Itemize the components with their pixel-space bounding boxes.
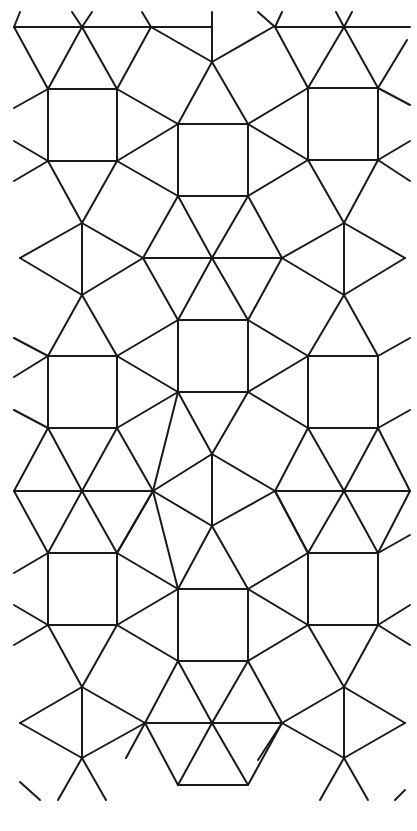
tiling-edge [178, 723, 212, 785]
tiling-edge [14, 625, 48, 645]
tiling-edge [248, 320, 308, 356]
tiling-edge [117, 392, 178, 428]
tiling-edge [378, 40, 407, 88]
tiling-edge [308, 625, 344, 687]
tiling-edge [248, 553, 308, 589]
tiling-edge [282, 258, 344, 295]
tiling-edge [212, 27, 273, 62]
tiling-edge [248, 356, 308, 392]
tiling-edge [308, 160, 344, 223]
tiling-edge [117, 553, 178, 589]
tiling-edge [258, 12, 275, 27]
tiling-edge [14, 356, 48, 377]
tiling-edge [20, 258, 82, 295]
tiling-edge [82, 161, 117, 223]
tiling-edge [212, 454, 275, 491]
tiling-edge [378, 428, 410, 491]
tiling-edge [378, 410, 410, 428]
tiling-edge [20, 223, 82, 258]
tiling-edge [282, 687, 344, 723]
tiling-edge [282, 723, 344, 758]
tiling-edge [20, 723, 82, 758]
tiling-edge [117, 161, 178, 196]
tiling-figure [0, 0, 417, 831]
tiling-edge [378, 160, 410, 181]
tiling-edge [308, 27, 344, 88]
tiling-edge [14, 12, 20, 27]
tiling-edge [14, 27, 48, 89]
tiling-edge [14, 428, 48, 491]
tiling-edge [248, 160, 308, 196]
tiling-edge [117, 589, 178, 625]
tiling-edge [20, 687, 82, 723]
tiling-edge [344, 723, 405, 758]
tiling-edge [395, 790, 405, 800]
tiling-edge [82, 12, 92, 27]
tiling-edge [212, 62, 248, 124]
tiling-edge [82, 27, 117, 89]
tiling-edge [14, 161, 48, 181]
tiling-edge [248, 589, 308, 625]
tiling-edge [48, 295, 82, 356]
tiling-edge [344, 258, 405, 295]
tiling-edge [117, 491, 153, 553]
tiling-edge [378, 605, 410, 625]
tiling-edge [117, 356, 178, 392]
tiling-edge [344, 687, 405, 723]
tiling-edge [82, 428, 117, 491]
tiling-edge [142, 12, 151, 27]
tiling-edge [378, 338, 410, 356]
tiling-edge [14, 141, 48, 161]
tiling-edge [212, 258, 248, 320]
tiling-edge [275, 428, 308, 491]
tiling-edge [14, 89, 48, 108]
tiling-edge [248, 392, 308, 428]
tiling-edge [178, 526, 212, 589]
tiling-edge [275, 27, 308, 88]
tiling-edge [143, 196, 178, 258]
tiling-edge [344, 625, 378, 687]
tiling-edge [117, 320, 178, 356]
tiling-edge [48, 428, 82, 491]
tiling-edge [58, 758, 82, 800]
tiling-edge [282, 223, 344, 258]
tiling-edge [14, 553, 48, 573]
tiling-edge [178, 258, 212, 320]
tiling-edge [336, 12, 344, 27]
tiling-edge [212, 491, 275, 526]
tiling-edge [178, 62, 212, 124]
tiling-edge [14, 410, 48, 428]
tiling-edge [378, 141, 410, 160]
tiling-edge [344, 491, 378, 553]
tiling-edge [153, 392, 178, 491]
tiling-edge [82, 758, 106, 800]
tiling-edge [308, 295, 344, 356]
tiling-edge [20, 782, 40, 800]
tiling-edge [117, 428, 153, 491]
tiling-edge [82, 625, 117, 687]
tiling-edge [14, 605, 48, 625]
tiling-edge [145, 723, 178, 785]
tiling-edge [14, 491, 48, 553]
tiling-edge [48, 491, 82, 553]
tiling-edge [72, 12, 82, 27]
tiling-edge [275, 12, 282, 27]
tiling-edge [308, 491, 344, 553]
tiling-edge [117, 27, 151, 89]
tiling-edge [178, 392, 212, 454]
tiling-edge [178, 196, 212, 258]
tiling-edge [344, 27, 378, 88]
tiling-edge [248, 124, 308, 160]
tiling-edge [151, 27, 212, 62]
tiling-edge [82, 258, 143, 295]
tiling-svg [0, 0, 417, 831]
tiling-edge [117, 625, 178, 661]
tiling-edge [344, 12, 352, 27]
tiling-edge [178, 661, 212, 723]
tiling-edge [117, 89, 178, 124]
tiling-edge [48, 625, 82, 687]
tiling-edge [212, 392, 248, 454]
tiling-edge [344, 428, 378, 491]
tiling-edge [378, 625, 410, 645]
tiling-edge [344, 295, 378, 356]
